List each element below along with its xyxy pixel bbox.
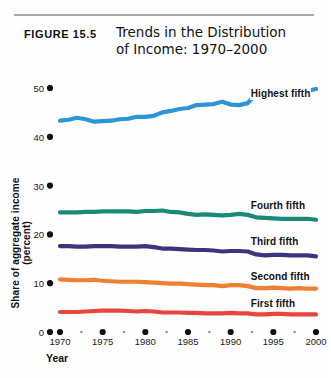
y-axis-tick-dot: [47, 329, 53, 335]
y-axis-tick-label: 0: [22, 327, 44, 338]
series-label: Fourth fifth: [250, 200, 307, 212]
y-axis-tick-label: 40: [22, 131, 44, 142]
x-axis-tick-label: 1970: [45, 336, 75, 347]
y-axis-tick-label: 50: [22, 83, 44, 94]
x-axis-minor-tick-dot: [123, 331, 126, 334]
x-axis-tick-dot: [313, 329, 319, 335]
y-axis-title: Share of aggregate income (percent): [10, 158, 32, 328]
x-axis-tick-label: 1980: [130, 336, 160, 347]
series-label: First fifth: [250, 298, 296, 310]
x-axis-tick-dot: [185, 329, 191, 335]
y-axis-tick-dot: [47, 280, 53, 286]
x-axis-tick-label: 1985: [173, 336, 203, 347]
x-axis-minor-tick-dot: [293, 331, 296, 334]
x-axis-minor-tick-dot: [251, 331, 254, 334]
x-axis-minor-tick-dot: [80, 331, 83, 334]
x-axis-tick-dot: [228, 329, 234, 335]
x-axis-tick-dot: [270, 329, 276, 335]
x-axis-minor-tick-dot: [165, 331, 168, 334]
series-label: Second fifth: [250, 271, 311, 283]
y-axis-tick-dot: [47, 134, 53, 140]
series-label: Highest fifth: [250, 88, 312, 100]
x-axis-title: Year: [46, 352, 68, 364]
x-axis-tick-label: 2000: [301, 336, 331, 347]
series-label: Third fifth: [250, 236, 300, 248]
x-axis-minor-tick-dot: [208, 331, 211, 334]
x-axis-tick-label: 1990: [216, 336, 246, 347]
x-axis-tick-label: 1975: [88, 336, 118, 347]
x-axis-tick-dot: [142, 329, 148, 335]
y-axis-tick-dot: [47, 183, 53, 189]
x-axis-tick-dot: [100, 329, 106, 335]
y-axis-tick-dot: [47, 231, 53, 237]
y-axis-tick-dot: [47, 85, 53, 91]
series-line: [60, 210, 316, 219]
x-axis-tick-label: 1995: [258, 336, 288, 347]
series-line: [60, 311, 316, 315]
x-axis-tick-dot: [57, 329, 63, 335]
